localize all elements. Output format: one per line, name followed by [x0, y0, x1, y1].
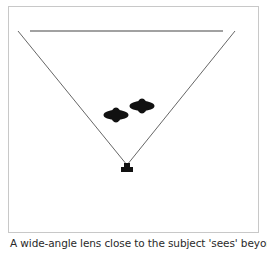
view-angle-left-line: [18, 31, 127, 165]
view-angle-right-line: [127, 31, 235, 165]
figure-caption: A wide-angle lens close to the subject '…: [10, 236, 267, 250]
camera-icon: [121, 163, 133, 172]
subject-2-icon: [130, 99, 155, 114]
subject-1-icon: [104, 108, 129, 123]
wide-angle-diagram: [0, 0, 267, 257]
